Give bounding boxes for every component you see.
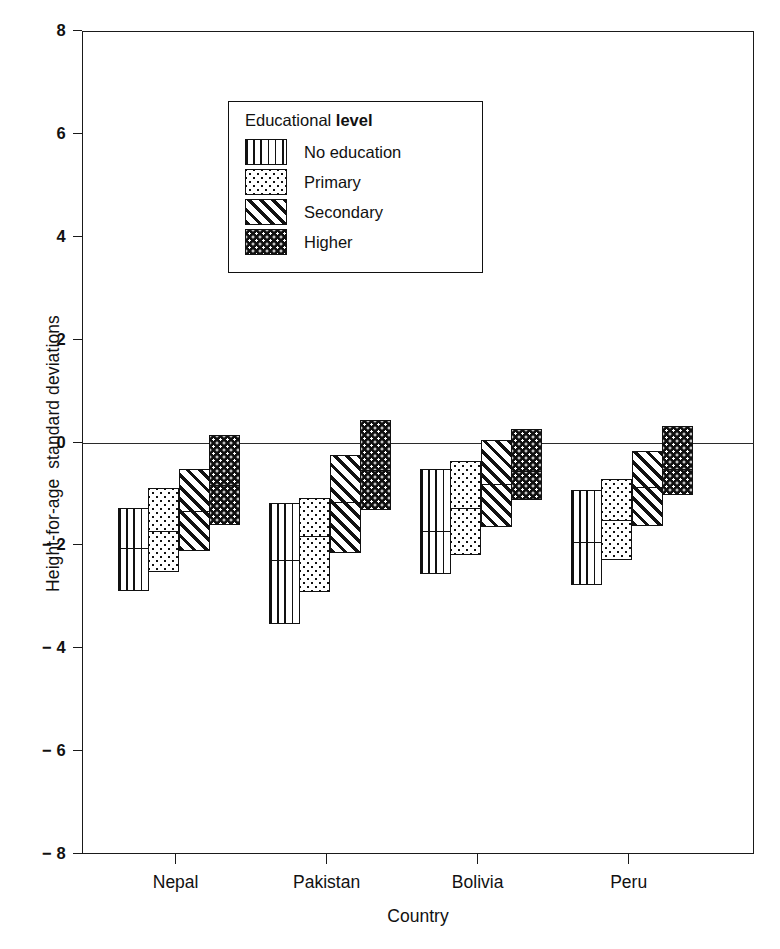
box-no-education-pakistan [269,503,300,623]
legend-swatch-no-education [245,139,287,165]
y-tick-label: 6 [57,123,66,144]
legend-title: Educational level [245,111,470,130]
legend-label: Higher [304,233,353,252]
chart-figure: Height-for-age standard deviations 86420… [0,0,780,949]
median-line [663,469,692,470]
box-secondary-bolivia [481,440,512,526]
zero-reference-line [82,443,754,444]
median-line [331,502,360,503]
y-tick-mark [73,133,82,134]
legend-item-higher[interactable]: Higher [245,228,470,256]
x-tick-label: Peru [549,872,709,893]
box-no-education-bolivia [420,469,451,574]
median-line [210,485,239,486]
box-primary-pakistan [299,498,330,592]
y-tick-label: 8 [57,20,66,41]
median-line [300,536,329,537]
x-tick-label: Bolivia [398,872,558,893]
box-primary-peru [601,479,632,560]
y-tick-label: 4 [57,226,66,247]
y-tick-mark [73,236,82,237]
legend-title-prefix: Educational [245,111,336,129]
box-higher-bolivia [511,429,542,500]
legend-label: Primary [304,173,361,192]
legend-item-no-education[interactable]: No education [245,138,470,166]
y-tick-mark [73,750,82,751]
y-tick-label: 0 [57,432,66,453]
median-line [451,508,480,509]
legend: Educational level No educationPrimarySec… [228,101,483,273]
median-line [633,487,662,488]
x-tick-mark [326,854,327,864]
y-tick-mark [73,339,82,340]
y-tick-label: − 4 [42,637,66,658]
median-line [602,520,631,521]
box-higher-nepal [209,435,240,525]
x-tick-mark [628,854,629,864]
x-axis-title: Country [82,906,754,927]
median-line [572,542,601,543]
median-line [512,471,541,472]
y-tick-mark [73,647,82,648]
median-line [270,560,299,561]
median-line [149,531,178,532]
legend-label: No education [304,143,401,162]
median-line [421,531,450,532]
median-line [180,511,209,512]
box-no-education-nepal [118,508,149,591]
x-tick-mark [175,854,176,864]
box-secondary-peru [632,451,663,526]
box-primary-bolivia [450,461,481,555]
median-line [482,484,511,485]
legend-title-emphasis: level [336,111,373,129]
x-tick-label: Pakistan [247,872,407,893]
box-higher-pakistan [360,420,391,511]
x-tick-mark [477,854,478,864]
y-tick-label: 2 [57,329,66,350]
y-axis-title: Height-for-age standard deviations [43,54,64,854]
median-line [361,470,390,471]
y-tick-label: − 8 [42,843,66,864]
legend-swatch-primary [245,169,287,195]
y-tick-mark [73,853,82,854]
legend-swatch-higher [245,229,287,255]
box-higher-peru [662,426,693,495]
legend-swatch-secondary [245,199,287,225]
x-tick-label: Nepal [96,872,256,893]
median-line [119,548,148,549]
y-tick-mark [73,442,82,443]
box-secondary-nepal [179,469,210,550]
y-tick-mark [73,544,82,545]
y-tick-mark [73,30,82,31]
legend-item-primary[interactable]: Primary [245,168,470,196]
box-no-education-peru [571,490,602,585]
y-tick-label: − 6 [42,740,66,761]
legend-label: Secondary [304,203,383,222]
box-primary-nepal [148,488,179,572]
legend-item-secondary[interactable]: Secondary [245,198,470,226]
legend-items: No educationPrimarySecondaryHigher [245,138,470,256]
box-secondary-pakistan [330,455,361,553]
y-tick-label: − 2 [42,534,66,555]
